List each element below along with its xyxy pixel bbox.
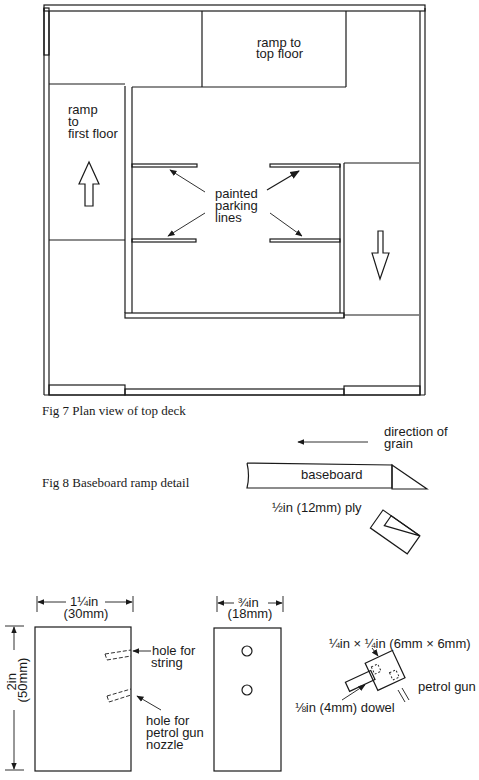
dowel-label: ⅛in (4mm) dowel: [295, 700, 395, 715]
parking-line: [270, 239, 340, 242]
fig7-caption: Fig 7 Plan view of top deck: [42, 403, 186, 418]
fig8-ramp-detail: direction of grain baseboard ½in (12mm) …: [247, 424, 451, 554]
parking-line: [132, 239, 196, 242]
front-block: [35, 627, 131, 771]
width-dimension: 1¼in (30mm): [64, 594, 109, 621]
svg-text:baseboard: baseboard: [301, 467, 362, 482]
parking-line: [132, 164, 197, 167]
fig7-plan-view: ramp to top floor ramp to first floor pa…: [44, 5, 425, 395]
petrol-gun-assembly: [342, 648, 409, 702]
up-arrow-icon: [79, 162, 99, 206]
technical-drawing: ramp to top floor ramp to first floor pa…: [0, 0, 479, 780]
hole-string-label: hole for string: [151, 643, 199, 670]
fig9-block: 1¼in (30mm) hole for string hole for pet…: [4, 594, 476, 771]
top-wall: [44, 5, 425, 11]
side-block: [214, 628, 281, 771]
petrol-gun-label: petrol gun: [418, 679, 476, 694]
wedge-rotated: [370, 510, 419, 554]
parking-lines-label: painted parking lines: [215, 186, 261, 225]
square-dim-label: ¼in × ¼in (6mm × 6mm): [329, 636, 471, 651]
ramp-first-label: ramp to first floor: [68, 102, 119, 141]
ply-label: ½in (12mm) ply: [272, 500, 362, 515]
height-dimension: 2in (50mm): [4, 658, 30, 703]
side-dimension: ¾in (18mm): [228, 595, 273, 621]
hole-nozzle-label: hole for petrol gun nozzle: [146, 713, 207, 752]
grain-label: direction of grain: [384, 424, 451, 451]
ramp-wedge: [392, 465, 427, 489]
hole-circle: [242, 685, 252, 695]
parking-line: [270, 164, 340, 167]
ramp-top-label: ramp to top floor: [256, 35, 305, 61]
down-arrow-icon: [372, 231, 389, 279]
fig8-caption: Fig 8 Baseboard ramp detail: [42, 475, 190, 490]
hole-circle: [242, 646, 252, 656]
